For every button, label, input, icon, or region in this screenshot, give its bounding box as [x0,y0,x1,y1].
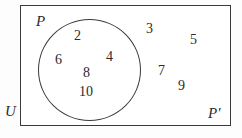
set-element: 10 [79,85,93,99]
set-element: 8 [83,66,90,80]
universal-set-label: U [5,104,16,119]
set-element: 4 [106,50,113,64]
complement-element: 7 [158,64,165,78]
set-p-complement-label: P′ [208,106,221,121]
venn-diagram-figure: U P P′ 264810 3579 [0,0,242,138]
set-p-label: P [36,14,45,29]
set-element: 2 [74,29,81,43]
complement-element: 5 [190,33,197,47]
set-element: 6 [55,53,62,67]
complement-element: 3 [146,22,153,36]
complement-element: 9 [178,79,185,93]
